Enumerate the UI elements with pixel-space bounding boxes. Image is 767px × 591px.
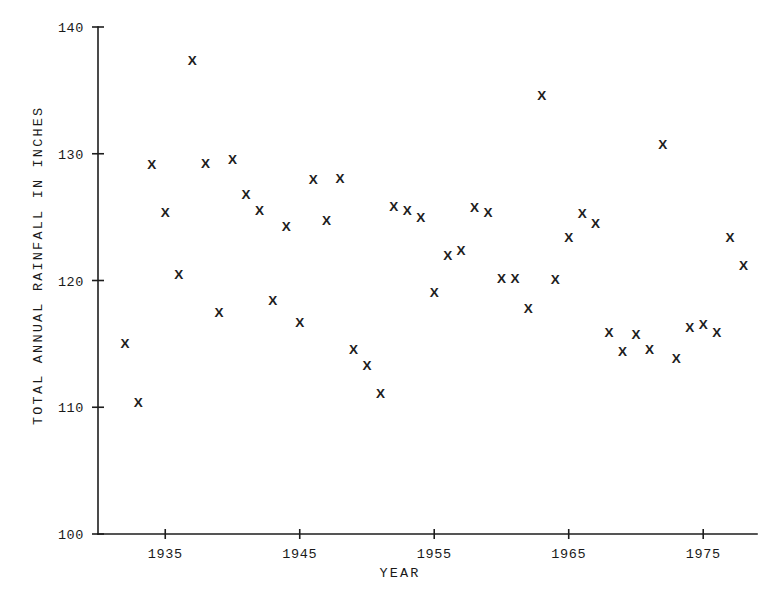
x-tick-label: 1935 — [148, 547, 183, 562]
scatter-plot-figure: 100110120130140 19351945195519651975 XXX… — [0, 0, 767, 591]
data-point-marker: X — [564, 230, 573, 245]
x-tick-label: 1945 — [282, 547, 317, 562]
data-point-marker: X — [309, 172, 318, 187]
data-point-marker: X — [336, 171, 345, 186]
data-point-marker: X — [578, 206, 587, 221]
data-point-marker: X — [322, 213, 331, 228]
data-point-marker: X — [215, 305, 224, 320]
data-point-marker: X — [658, 137, 667, 152]
y-tick-label: 130 — [58, 148, 84, 163]
data-point-marker: X — [430, 285, 439, 300]
data-point-marker: X — [605, 325, 614, 340]
x-tick-label: 1965 — [551, 547, 586, 562]
data-point-marker: X — [537, 88, 546, 103]
data-point-marker: X — [161, 205, 170, 220]
data-point-marker: X — [376, 386, 385, 401]
data-point-marker: X — [645, 342, 654, 357]
data-point-marker: X — [147, 157, 156, 172]
data-point-marker: X — [618, 344, 627, 359]
y-axis-ticks: 100110120130140 — [58, 21, 104, 543]
data-point-marker: X — [120, 336, 129, 351]
data-point-marker: X — [551, 272, 560, 287]
data-point-marker: X — [282, 219, 291, 234]
data-point-marker: X — [241, 187, 250, 202]
axes — [98, 27, 757, 534]
data-point-marker: X — [134, 395, 143, 410]
data-point-marker: X — [255, 203, 264, 218]
data-point-marker: X — [672, 351, 681, 366]
data-point-marker: X — [201, 156, 210, 171]
data-point-marker: X — [739, 258, 748, 273]
x-tick-label: 1975 — [686, 547, 721, 562]
data-point-marker: X — [712, 325, 721, 340]
y-tick-label: 120 — [58, 275, 84, 290]
data-point-marker: X — [699, 317, 708, 332]
x-tick-label: 1955 — [417, 547, 452, 562]
data-point-marker: X — [470, 200, 479, 215]
data-point-marker: X — [228, 152, 237, 167]
y-tick-label: 100 — [58, 528, 84, 543]
data-point-marker: X — [268, 293, 277, 308]
y-tick-label: 110 — [58, 401, 84, 416]
data-point-marker: X — [188, 53, 197, 68]
data-point-marker: X — [389, 199, 398, 214]
data-point-marker: X — [524, 301, 533, 316]
data-point-marker: X — [631, 327, 640, 342]
data-point-marker: X — [362, 358, 371, 373]
data-point-marker: X — [457, 243, 466, 258]
data-point-marker: X — [295, 315, 304, 330]
y-axis-title: TOTAL ANNUAL RAINFALL IN INCHES — [31, 106, 46, 425]
data-point-marker: X — [685, 320, 694, 335]
data-point-marker: X — [443, 248, 452, 263]
data-point-marker: X — [403, 203, 412, 218]
data-point-marker: X — [497, 271, 506, 286]
data-point-marker: X — [591, 216, 600, 231]
data-point-marker: X — [510, 271, 519, 286]
plot-canvas: 100110120130140 19351945195519651975 XXX… — [0, 0, 767, 591]
data-point-layer: XXXXXXXXXXXXXXXXXXXXXXXXXXXXXXXXXXXXXXXX… — [120, 53, 748, 410]
data-point-marker: X — [174, 267, 183, 282]
data-point-marker: X — [416, 210, 425, 225]
data-point-marker: X — [484, 205, 493, 220]
data-point-marker: X — [349, 342, 358, 357]
y-tick-label: 140 — [58, 21, 84, 36]
data-point-marker: X — [726, 230, 735, 245]
x-axis-title: YEAR — [379, 566, 420, 581]
